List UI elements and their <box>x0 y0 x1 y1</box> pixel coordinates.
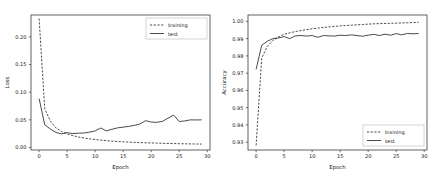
y-tick-label: 0.97 <box>232 70 243 76</box>
y-tick-label: 0.99 <box>232 36 243 42</box>
x-tick-label: 0 <box>37 153 40 159</box>
x-tick-label: 0 <box>254 153 257 159</box>
x-tick-label: 30 <box>204 153 210 159</box>
loss-x-ticks: 051015202530 <box>37 150 210 159</box>
loss-legend-label-test: test <box>168 31 178 37</box>
x-tick-label: 30 <box>421 153 427 159</box>
y-tick-label: 0.95 <box>232 105 243 111</box>
loss-x-axis-label: Epoch <box>112 164 129 171</box>
loss-legend[interactable]: training test <box>146 18 207 39</box>
y-tick-label: 0.15 <box>15 61 26 67</box>
y-tick-label: 0.05 <box>15 117 26 123</box>
x-tick-label: 15 <box>120 153 126 159</box>
x-tick-label: 5 <box>66 153 69 159</box>
x-tick-label: 20 <box>365 153 371 159</box>
y-tick-label: 0.93 <box>232 139 243 145</box>
loss-legend-label-training: training <box>168 22 188 29</box>
accuracy-legend-label-test: test <box>385 138 395 144</box>
loss-y-ticks: 0.000.050.100.150.20 <box>15 34 31 151</box>
x-tick-label: 25 <box>176 153 182 159</box>
x-tick-label: 20 <box>148 153 154 159</box>
y-tick-label: 0.10 <box>15 89 26 95</box>
loss-chart-svg: 051015202530 0.000.050.100.150.20 Epoch … <box>0 0 218 178</box>
y-tick-label: 0.20 <box>15 34 26 40</box>
y-tick-label: 1.00 <box>232 18 243 24</box>
accuracy-x-axis-label: Epoch <box>329 164 346 171</box>
figure-root: 051015202530 0.000.050.100.150.20 Epoch … <box>0 0 436 178</box>
accuracy-chart-svg: 051015202530 0.930.940.950.960.970.980.9… <box>218 0 436 178</box>
x-tick-label: 10 <box>309 153 315 159</box>
accuracy-legend[interactable]: training test <box>363 125 424 146</box>
x-tick-label: 10 <box>92 153 98 159</box>
loss-y-axis-label: Loss <box>4 76 10 88</box>
y-tick-label: 0.00 <box>15 144 26 150</box>
y-tick-label: 0.98 <box>232 53 243 59</box>
y-tick-label: 0.96 <box>232 87 243 93</box>
x-tick-label: 15 <box>337 153 343 159</box>
accuracy-legend-label-training: training <box>385 129 405 136</box>
y-tick-label: 0.94 <box>232 122 243 128</box>
x-tick-label: 5 <box>283 153 286 159</box>
x-tick-label: 25 <box>393 153 399 159</box>
loss-chart-panel: 051015202530 0.000.050.100.150.20 Epoch … <box>0 0 218 178</box>
accuracy-x-ticks: 051015202530 <box>254 150 427 159</box>
accuracy-chart-panel: 051015202530 0.930.940.950.960.970.980.9… <box>218 0 436 178</box>
accuracy-y-ticks: 0.930.940.950.960.970.980.991.00 <box>232 18 248 145</box>
accuracy-y-axis-label: Accuracy <box>221 69 228 94</box>
